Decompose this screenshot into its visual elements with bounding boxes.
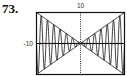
y-tick-label-top: 10 [77, 2, 85, 9]
chart: 10 -10 [0, 0, 127, 76]
x-tick-label-left: -10 [24, 40, 34, 47]
